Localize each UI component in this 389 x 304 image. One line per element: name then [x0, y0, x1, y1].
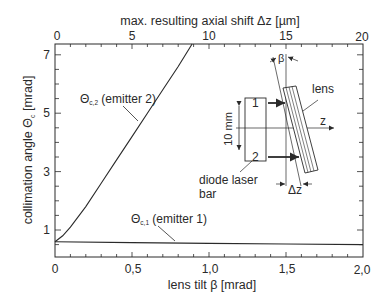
bottom-axis-tick-labels: 0 0,5 1,0 1,5 2,0 [52, 262, 371, 277]
bottom-axis-title: lens tilt β [mrad] [168, 278, 256, 292]
x-tick-label: 1,0 [202, 262, 219, 276]
x2-tick-label: 5 [129, 29, 136, 43]
x-tick-label: 0,5 [125, 262, 142, 276]
x-tick-label: 2,0 [354, 263, 371, 277]
axis-ticks [55, 44, 363, 257]
x2-tick-label: 20 [355, 30, 369, 44]
series-emitter-1-line [55, 242, 363, 245]
lens-shape [283, 86, 318, 173]
lens-leader [303, 100, 318, 111]
x-tick-label: 1,5 [279, 262, 296, 276]
emitter-1-label: 1 [252, 96, 259, 110]
series-2-leader [123, 106, 138, 121]
top-axis-title: max. resulting axial shift Δz [µm] [120, 14, 300, 28]
delta-z-label: Δz [288, 183, 302, 197]
diode-bar-leader [240, 161, 252, 172]
inset-labels: lens z β Δz 10 mm 1 2 diode laser bar [199, 52, 334, 201]
y-axis-tick-labels: 1 3 5 7 [43, 48, 50, 237]
lens-label: lens [312, 82, 334, 96]
y-tick-label: 1 [43, 223, 50, 237]
y-tick-label: 5 [43, 106, 50, 120]
chart-figure: 0 5 10 15 20 max. resulting axial shift … [0, 0, 389, 304]
x-tick-label: 0 [52, 262, 59, 276]
x2-tick-label: 10 [202, 29, 216, 43]
emitter-2-label: 2 [252, 150, 259, 164]
y-axis-title: collimation angle Θc [mrad] [21, 76, 36, 225]
y-tick-label: 3 [43, 165, 50, 179]
x2-tick-label: 15 [279, 29, 293, 43]
ten-mm-label: 10 mm [222, 112, 234, 146]
beta-arrow-right [288, 57, 298, 61]
plot-frame [55, 44, 363, 257]
series-1-annotation: Θc,1 (emitter 1) [131, 212, 207, 226]
x2-tick-label: 0 [54, 29, 61, 43]
bar-label: bar [199, 187, 216, 201]
y-tick-label: 7 [43, 48, 50, 62]
diode-laser-label: diode laser [199, 173, 258, 187]
series-1-leader [158, 226, 175, 241]
beta-label: β [278, 52, 284, 64]
top-axis-tick-labels: 0 5 10 15 20 [54, 29, 369, 44]
series-2-annotation: Θc,2 (emitter 2) [80, 92, 156, 106]
z-label: z [320, 114, 326, 128]
